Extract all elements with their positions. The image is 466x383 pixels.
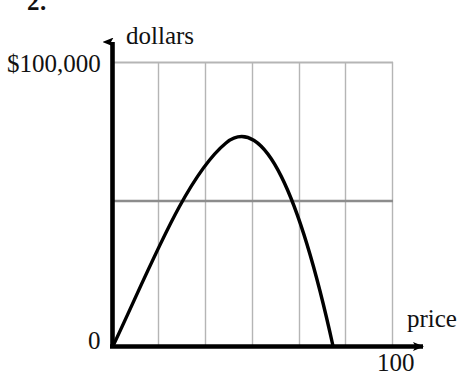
x-axis-title: price bbox=[407, 306, 457, 331]
vertical-gridlines bbox=[159, 62, 393, 346]
y-axis-title: dollars bbox=[126, 23, 194, 48]
y-axis-max-label: $100,000 bbox=[7, 51, 101, 76]
problem-number: 2. bbox=[27, 0, 47, 14]
x-axis-max-label: 100 bbox=[377, 350, 415, 375]
graph-figure: 2. $100,000 dollars 0 100 price bbox=[0, 0, 466, 383]
origin-label: 0 bbox=[88, 328, 101, 353]
